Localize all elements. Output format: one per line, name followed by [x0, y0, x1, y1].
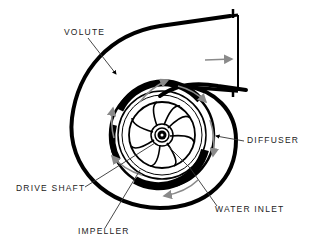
label-water-inlet: WATER INLET — [215, 205, 284, 214]
label-volute: VOLUTE — [64, 28, 105, 37]
label-diffuser: DIFFUSER — [247, 136, 299, 145]
pump-diagram: VOLUTE DIFFUSER DRIVE SHAFT WATER INLET … — [0, 0, 311, 250]
label-drive-shaft: DRIVE SHAFT — [16, 184, 85, 193]
drive-shaft-hub — [155, 128, 169, 142]
label-impeller: IMPELLER — [78, 227, 130, 236]
